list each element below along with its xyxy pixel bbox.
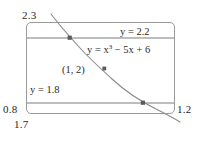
annotation-upper-line: y = 2.2 [120,26,150,37]
graph-figure: 2.3 0.8 1.7 1.2 y = 2.2 y = x3 − 5x + 6 … [0,0,200,142]
window-label-y-max: 2.3 [22,10,36,21]
window-label-x-max: 1.2 [177,104,191,115]
plot-canvas [0,0,200,142]
point-marker-1-2 [102,67,106,71]
intersection-marker-lower [141,101,145,105]
curve-equation-suffix: − 5x + 6 [112,44,150,55]
window-label-x-min: 0.8 [3,104,17,115]
annotation-point-label: (1, 2) [62,64,85,75]
annotation-lower-line: y = 1.8 [30,84,60,95]
window-label-x-min-secondary: 1.7 [14,119,28,130]
annotation-curve-equation: y = x3 − 5x + 6 [87,44,150,55]
intersection-marker-upper [68,36,72,40]
curve-equation-prefix: y = x [87,44,109,55]
